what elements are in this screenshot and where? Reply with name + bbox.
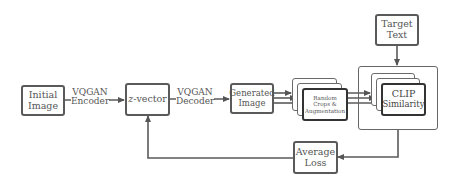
target-text-node: TargetText bbox=[375, 14, 419, 46]
node-label: -vector bbox=[133, 93, 167, 104]
random-crops-node: RandomCrops &Augmentation bbox=[302, 88, 348, 121]
node-label: Image bbox=[28, 101, 58, 112]
node-label: Augmentation bbox=[305, 108, 345, 114]
arrow-feedback bbox=[148, 116, 293, 158]
node-label: Average bbox=[296, 147, 335, 158]
node-label: Initial bbox=[28, 90, 58, 101]
arrow-to-loss bbox=[338, 129, 398, 157]
z-vector-node: z-vector bbox=[125, 83, 170, 116]
node-label: Loss bbox=[296, 158, 335, 169]
encoder-label: VQGANEncoder bbox=[71, 88, 109, 107]
initial-image-node: InitialImage bbox=[21, 85, 65, 116]
node-label: Text bbox=[381, 30, 412, 41]
node-label: Similarity bbox=[382, 100, 424, 110]
average-loss-node: AverageLoss bbox=[293, 141, 338, 174]
clip-similarity-node: CLIPSimilarity bbox=[381, 83, 426, 116]
node-label: Image bbox=[229, 99, 274, 109]
decoder-label: VQGANDecoder bbox=[176, 88, 214, 107]
generated-image-node: GeneratedImage bbox=[230, 83, 274, 114]
